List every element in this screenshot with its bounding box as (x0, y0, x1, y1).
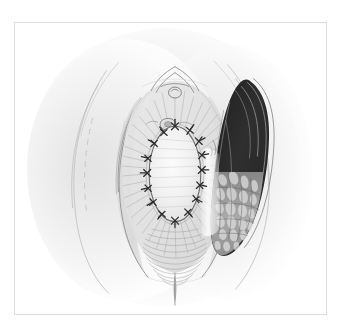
anatomical-illustration-canvas (15, 23, 326, 314)
illustration-figure: Surgical illustration of perineal repair… (0, 0, 342, 328)
illustration-frame (14, 22, 327, 315)
clitoris (169, 87, 182, 98)
